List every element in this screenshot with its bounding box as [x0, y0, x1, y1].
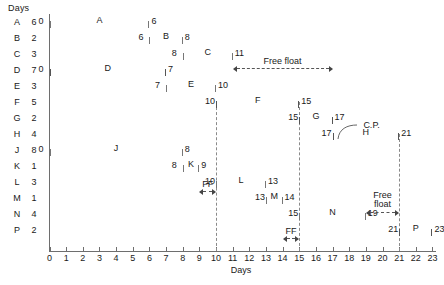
x-tick-9: [199, 247, 200, 251]
free-float-k-label: FF: [178, 179, 238, 189]
activity-name: B: [10, 33, 24, 43]
bar-start-value-p: 21: [388, 224, 398, 234]
x-axis-line: [49, 251, 436, 252]
activity-name: K: [10, 161, 24, 171]
free-float-m-label: FF: [261, 226, 321, 236]
bar-start-value-e: 7: [155, 80, 160, 90]
activity-name: F: [10, 97, 24, 107]
bar-end-value-c: 11: [235, 48, 244, 58]
bar-end-value-e: 10: [218, 80, 228, 90]
bar-label: A: [50, 15, 150, 25]
x-tick-2: [83, 247, 84, 251]
activity-duration: 3: [28, 177, 40, 187]
bar-end-value-m: 14: [285, 192, 295, 202]
bar-start-value-a: 0: [39, 16, 44, 26]
bar-start-value-n: 15: [288, 208, 298, 218]
activity-name: C: [10, 49, 24, 59]
bar-end-value-h: 21: [401, 128, 411, 138]
bar-start-value-h: 17: [322, 128, 332, 138]
x-tick-7: [166, 247, 167, 251]
critical-path-label: C.P.: [357, 120, 387, 130]
activity-duration: 1: [28, 161, 40, 171]
free-float-c-line: [237, 68, 329, 69]
free-float-n-label: Freefloat: [353, 191, 413, 209]
y-axis-line: [49, 14, 50, 252]
bar-label: F: [216, 95, 299, 105]
bar-end-value-g: 17: [335, 112, 345, 122]
x-tick-8: [183, 247, 184, 251]
free-float-n-arrow-right: [395, 210, 399, 216]
bar-end-value-d: 7: [168, 64, 173, 74]
activity-duration: 2: [28, 33, 40, 43]
x-tick-17: [333, 247, 334, 251]
activity-duration: 5: [28, 97, 40, 107]
free-float-m-arrow-left: [283, 236, 287, 242]
activity-name: P: [10, 225, 24, 235]
activity-name: H: [10, 129, 24, 139]
activity-name: G: [10, 113, 24, 123]
x-tick-11: [233, 247, 234, 251]
x-tick-3: [99, 247, 100, 251]
free-float-m-arrow-right: [295, 236, 299, 242]
x-tick-20: [383, 247, 384, 251]
bar-end-value-l: 13: [268, 176, 278, 186]
x-tick-13: [266, 247, 267, 251]
x-tick-label-23: 23: [422, 253, 442, 263]
activity-name: J: [10, 145, 24, 155]
bar-end-value-p: 23: [434, 224, 444, 234]
x-tick-6: [149, 247, 150, 251]
bar-start-value-b: 6: [138, 32, 143, 42]
activity-name: N: [10, 209, 24, 219]
bar-label: C: [183, 47, 233, 57]
bar-end-value-f: 15: [301, 96, 311, 106]
x-tick-22: [416, 247, 417, 251]
activity-duration: 4: [28, 129, 40, 139]
activity-name: E: [10, 81, 24, 91]
activity-name: L: [10, 177, 24, 187]
x-tick-23: [432, 247, 433, 251]
free-float-c-label: Free float: [253, 56, 313, 66]
x-tick-16: [316, 247, 317, 251]
bar-start-value-d: 0: [39, 64, 44, 74]
activity-duration: 4: [28, 209, 40, 219]
activity-duration: 3: [28, 81, 40, 91]
bar-label: K: [183, 159, 200, 169]
bar-end-value-a: 6: [151, 16, 156, 26]
bar-start-value-m: 13: [255, 192, 265, 202]
bar-label: P: [399, 223, 432, 233]
bar-start-value-g: 15: [288, 112, 298, 122]
bar-end-value-b: 8: [185, 32, 190, 42]
free-float-m-line: [287, 238, 296, 239]
bar-label: E: [166, 79, 216, 89]
x-tick-19: [366, 247, 367, 251]
free-float-n-line: [370, 212, 395, 213]
activity-name: M: [10, 193, 24, 203]
bar-start-value-k: 8: [172, 160, 177, 170]
activity-duration: 2: [28, 113, 40, 123]
bar-label: B: [149, 31, 182, 41]
bar-start-value-j: 0: [39, 144, 44, 154]
x-tick-1: [66, 247, 67, 251]
free-float-c-arrow-right: [329, 66, 333, 72]
x-tick-18: [349, 247, 350, 251]
bar-label: G: [299, 111, 332, 121]
duration-column-header: Days: [8, 3, 29, 13]
activity-duration: 2: [28, 225, 40, 235]
free-float-k-line: [203, 191, 212, 192]
free-float-c-arrow-left: [233, 66, 237, 72]
x-tick-14: [283, 247, 284, 251]
x-axis-title: Days: [211, 265, 271, 275]
free-float-n-arrow-left: [366, 210, 370, 216]
activity-name: D: [10, 65, 24, 75]
bar-label: J: [50, 143, 183, 153]
x-tick-12: [249, 247, 250, 251]
bar-end-value-k: 9: [201, 160, 206, 170]
bar-label: M: [266, 191, 283, 201]
activity-duration: 1: [28, 193, 40, 203]
bar-start-value-f: 10: [205, 96, 215, 106]
free-float-k-arrow-left: [199, 189, 203, 195]
x-tick-0: [50, 247, 51, 251]
activity-duration: 3: [28, 49, 40, 59]
activity-name: A: [10, 17, 24, 27]
free-float-k-arrow-right: [212, 189, 216, 195]
